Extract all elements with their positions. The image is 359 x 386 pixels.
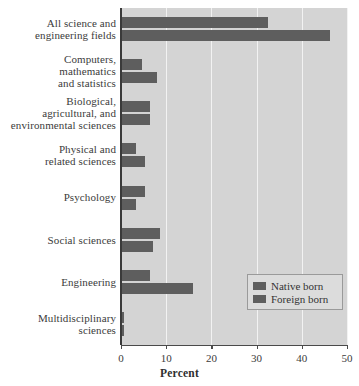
bar	[121, 143, 136, 154]
x-tick-label-40: 40	[296, 352, 307, 364]
y-axis-label-line: Biological,	[0, 95, 116, 107]
y-axis-label: Multidisciplinarysciences	[0, 312, 116, 336]
y-axis-label-line: engineering fields	[0, 29, 116, 41]
bar	[121, 228, 160, 239]
x-tick-label-20: 20	[206, 352, 217, 364]
y-axis-label: Social sciences	[0, 234, 116, 246]
x-tick-label-10: 10	[161, 352, 172, 364]
bar	[121, 72, 157, 83]
y-axis-label-line: Psychology	[0, 191, 116, 203]
y-axis-label: Biological,agricultural, andenvironmenta…	[0, 95, 116, 132]
y-axis-category-labels: All science andengineering fieldsCompute…	[0, 8, 116, 345]
bar	[121, 156, 145, 167]
y-axis-label-line: agricultural, and	[0, 107, 116, 119]
y-axis-label: Physical andrelated sciences	[0, 143, 116, 167]
y-axis-label: Psychology	[0, 191, 116, 203]
x-tick-label-50: 50	[342, 352, 353, 364]
legend-swatch-icon	[253, 282, 266, 290]
y-axis-label: Computers,mathematicsand statistics	[0, 53, 116, 90]
y-axis-label-line: Computers,	[0, 53, 116, 65]
x-tick-label-0: 0	[118, 352, 124, 364]
legend-swatch-icon	[253, 295, 266, 303]
y-axis-label-line: and statistics	[0, 77, 116, 89]
x-tick-50	[347, 345, 348, 349]
y-axis-line	[120, 8, 122, 345]
y-axis-label-line: environmental sciences	[0, 119, 116, 131]
y-axis-label-line: mathematics	[0, 65, 116, 77]
legend-label: Native born	[271, 280, 323, 292]
bar	[121, 114, 150, 125]
x-axis-title: Percent	[0, 367, 359, 379]
x-tick-label-30: 30	[251, 352, 262, 364]
y-axis-label-line: Engineering	[0, 276, 116, 288]
legend-item: Foreign born	[253, 292, 337, 305]
y-axis-label-line: Physical and	[0, 143, 116, 155]
x-tick-30	[257, 345, 258, 349]
y-axis-label: All science andengineering fields	[0, 17, 116, 41]
y-axis-label-line: All science and	[0, 17, 116, 29]
bar	[121, 186, 145, 197]
bar	[121, 30, 330, 41]
gridline-50	[347, 8, 348, 345]
legend-item: Native born	[253, 279, 337, 292]
y-axis-label-line: Social sciences	[0, 234, 116, 246]
bar-chart: All science andengineering fieldsCompute…	[0, 0, 359, 386]
bar	[121, 199, 136, 210]
bar	[121, 283, 193, 294]
bar	[121, 270, 150, 281]
chart-legend: Native bornForeign born	[247, 274, 343, 310]
y-axis-label-line: sciences	[0, 324, 116, 336]
y-axis-label-line: Multidisciplinary	[0, 312, 116, 324]
y-axis-label-line: related sciences	[0, 155, 116, 167]
bar	[121, 101, 150, 112]
bar	[121, 241, 153, 252]
legend-label: Foreign born	[271, 293, 328, 305]
x-tick-20	[211, 345, 212, 349]
x-tick-10	[166, 345, 167, 349]
x-tick-40	[302, 345, 303, 349]
x-axis-line	[121, 345, 347, 346]
bar	[121, 17, 268, 28]
x-tick-0	[121, 345, 122, 349]
bar	[121, 59, 142, 70]
y-axis-label: Engineering	[0, 276, 116, 288]
